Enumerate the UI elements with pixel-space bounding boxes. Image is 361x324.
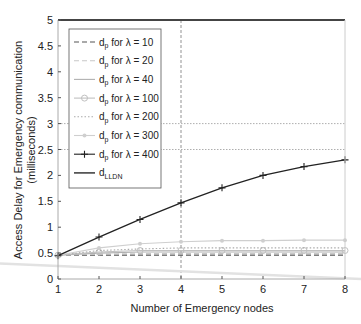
legend-box	[69, 29, 161, 188]
y-tick-label: 3	[47, 118, 53, 130]
x-tick-label: 1	[55, 283, 61, 295]
legend: dp for λ = 10dp for λ = 20dp for λ = 40d…	[69, 29, 161, 188]
dot-marker	[97, 246, 101, 250]
x-tick-label: 3	[137, 283, 143, 295]
dot-marker	[83, 134, 87, 138]
y-tick-label: 4	[47, 66, 53, 78]
y-tick-label: 0	[47, 273, 53, 285]
dot-marker	[179, 240, 183, 244]
y-tick-label: 4.5	[38, 40, 53, 52]
line-chart: 1234567800.511.522.533.544.55 Number of …	[0, 0, 361, 324]
y-tick-label: 2	[47, 169, 53, 181]
y-tick-label: 3.5	[38, 92, 53, 104]
x-tick-label: 8	[342, 283, 348, 295]
x-tick-label: 7	[301, 283, 307, 295]
y-tick-label: 1.5	[38, 195, 53, 207]
y-axis-label: Access Delay for Emergency communication…	[12, 41, 37, 259]
y-tick-label: 5	[47, 14, 53, 26]
y-axis-label-line1: Access Delay for Emergency communication	[12, 41, 24, 259]
x-axis-label: Number of Emergency nodes	[130, 302, 274, 314]
x-tick-label: 4	[178, 283, 184, 295]
x-tick-label: 6	[260, 283, 266, 295]
y-tick-label: 2.5	[38, 144, 53, 156]
dot-marker	[138, 242, 142, 246]
x-tick-label: 5	[219, 283, 225, 295]
dot-marker	[220, 239, 224, 243]
x-tick-label: 2	[96, 283, 102, 295]
dot-marker	[261, 239, 265, 243]
y-tick-label: 1	[47, 221, 53, 233]
y-axis-label-line2: (milliseconds)	[25, 116, 37, 183]
dot-marker	[302, 238, 306, 242]
y-tick-label: 0.5	[38, 247, 53, 259]
